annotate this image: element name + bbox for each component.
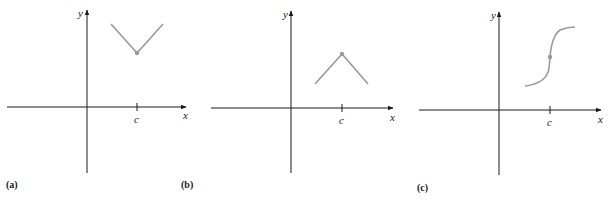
- caption-a: (a): [6, 179, 18, 191]
- v-curve: [111, 24, 163, 53]
- x-axis-label: x: [597, 113, 603, 125]
- panel-b: y x c (b): [181, 8, 395, 191]
- tick-label-c: c: [134, 113, 139, 125]
- y-axis-label: y: [282, 8, 288, 20]
- y-axis-label: y: [490, 9, 496, 21]
- vertex-point: [135, 51, 139, 55]
- panel-a: y x c (a): [6, 7, 188, 191]
- x-axis-label: x: [182, 109, 188, 121]
- caption-c: (c): [417, 182, 428, 194]
- y-axis-label: y: [77, 7, 83, 19]
- peak-point: [340, 52, 344, 56]
- caption-b: (b): [181, 179, 193, 191]
- x-axis-label: x: [389, 111, 395, 123]
- figure-canvas: y x c (a) y x c (b) y x c (c): [0, 0, 608, 200]
- inflection-point: [548, 55, 552, 59]
- tick-label-c: c: [547, 116, 552, 128]
- inverted-v-curve: [315, 54, 368, 84]
- panel-c: y x c (c): [417, 9, 603, 194]
- tick-label-c: c: [339, 114, 344, 126]
